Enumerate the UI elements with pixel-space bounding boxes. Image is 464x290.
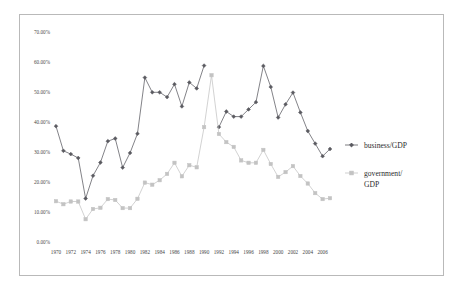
data-point-marker <box>202 64 206 68</box>
x-axis-tick-label: 2000 <box>273 249 284 255</box>
data-point-marker <box>276 116 280 120</box>
data-point-marker <box>180 175 183 178</box>
y-axis-tick-label: 0.00% <box>37 239 51 245</box>
data-point-marker <box>106 197 109 200</box>
data-point-marker <box>188 164 191 167</box>
data-point-marker <box>173 82 177 86</box>
legend-item-label[interactable]: business/GDP <box>364 141 407 150</box>
data-point-marker <box>232 145 235 148</box>
x-axis-tick-label: 1972 <box>66 249 77 255</box>
data-point-marker <box>76 156 80 160</box>
data-point-marker <box>165 95 169 99</box>
data-series-group <box>54 64 332 221</box>
data-point-marker <box>313 142 317 146</box>
data-point-marker <box>276 175 279 178</box>
y-axis-tick-label: 60.00% <box>34 59 51 65</box>
data-point-marker <box>54 124 58 128</box>
data-point-marker <box>291 164 294 167</box>
legend-swatch-marker <box>350 143 354 147</box>
data-point-marker <box>121 166 125 170</box>
series-line <box>219 66 330 156</box>
data-point-marker <box>143 76 147 80</box>
data-point-marker <box>113 137 117 141</box>
data-point-marker <box>180 105 184 109</box>
x-axis-tick-label: 1994 <box>229 249 240 255</box>
x-axis-tick-label: 1978 <box>110 249 121 255</box>
data-point-marker <box>262 148 265 151</box>
x-axis-tick-label: 1990 <box>199 249 210 255</box>
y-axis-tick-labels: 0.00%10.00%20.00%30.00%40.00%50.00%60.00… <box>34 29 51 245</box>
legend-swatch-marker <box>350 171 353 174</box>
data-point-marker <box>313 191 316 194</box>
data-point-marker <box>173 161 176 164</box>
series-line <box>56 66 204 199</box>
x-axis-tick-labels: 1970197219741976197819801982198419861988… <box>51 249 328 255</box>
data-point-marker <box>128 206 131 209</box>
data-point-marker <box>306 182 309 185</box>
data-point-marker <box>121 206 124 209</box>
data-point-marker <box>54 200 57 203</box>
data-point-marker <box>210 74 213 77</box>
x-axis-tick-label: 2004 <box>303 249 314 255</box>
x-axis-tick-label: 2006 <box>317 249 328 255</box>
data-point-marker <box>84 197 88 201</box>
data-point-marker <box>151 183 154 186</box>
data-point-marker <box>225 140 228 143</box>
x-axis-tick-label: 1998 <box>258 249 269 255</box>
y-axis-tick-label: 20.00% <box>34 179 51 185</box>
data-point-marker <box>69 200 72 203</box>
x-axis-tick-label: 1980 <box>125 249 136 255</box>
data-point-marker <box>136 132 140 136</box>
line-chart: 0.00%10.00%20.00%30.00%40.00%50.00%60.00… <box>0 0 464 290</box>
y-axis-tick-label: 30.00% <box>34 149 51 155</box>
data-point-marker <box>62 203 65 206</box>
data-point-marker <box>269 85 273 89</box>
chart-figure: 0.00%10.00%20.00%30.00%40.00%50.00%60.00… <box>0 0 464 290</box>
x-axis-tick-label: 1984 <box>154 249 165 255</box>
data-point-marker <box>165 172 168 175</box>
x-axis-tick-label: 1974 <box>80 249 91 255</box>
x-axis-tick-label: 1988 <box>184 249 195 255</box>
x-axis-tick-label: 1992 <box>214 249 225 255</box>
data-point-marker <box>195 166 198 169</box>
y-axis-tick-label: 40.00% <box>34 119 51 125</box>
data-point-marker <box>299 174 302 177</box>
data-point-marker <box>150 90 154 94</box>
data-point-marker <box>306 129 310 133</box>
data-point-marker <box>91 174 95 178</box>
x-axis-tick-label: 1982 <box>140 249 151 255</box>
data-point-marker <box>217 132 220 135</box>
data-point-marker <box>298 111 302 115</box>
data-point-marker <box>158 179 161 182</box>
y-axis-tick-label: 70.00% <box>34 29 51 35</box>
x-axis-tick-label: 1970 <box>51 249 62 255</box>
data-point-marker <box>284 170 287 173</box>
data-point-marker <box>254 161 257 164</box>
data-point-marker <box>261 64 265 68</box>
data-point-marker <box>202 125 205 128</box>
data-point-marker <box>158 90 162 94</box>
data-point-marker <box>99 161 103 165</box>
data-point-marker <box>284 102 288 106</box>
data-point-marker <box>84 218 87 221</box>
legend-item-label[interactable]: government/ <box>364 169 403 178</box>
data-point-marker <box>69 152 73 156</box>
data-point-marker <box>114 198 117 201</box>
data-point-marker <box>321 197 324 200</box>
legend-item-label-line2[interactable]: GDP <box>364 180 379 189</box>
data-point-marker <box>62 149 66 153</box>
data-point-marker <box>136 197 139 200</box>
data-point-marker <box>269 162 272 165</box>
data-point-marker <box>99 206 102 209</box>
y-axis-tick-label: 10.00% <box>34 209 51 215</box>
data-point-marker <box>106 139 110 143</box>
data-point-marker <box>128 151 132 155</box>
y-axis-tick-label: 50.00% <box>34 89 51 95</box>
series-government-gdp <box>54 74 331 221</box>
x-axis-tick-label: 2002 <box>288 249 299 255</box>
x-axis-tick-label: 1986 <box>169 249 180 255</box>
data-point-marker <box>91 207 94 210</box>
chart-legend: business/GDPgovernment/GDP <box>345 141 407 189</box>
series-line <box>56 75 330 219</box>
series-business-gdp <box>54 64 332 201</box>
